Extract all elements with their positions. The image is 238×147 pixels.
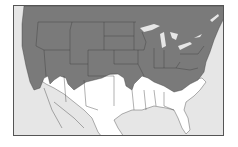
map-frame: [13, 5, 224, 136]
range-map: [14, 6, 224, 136]
